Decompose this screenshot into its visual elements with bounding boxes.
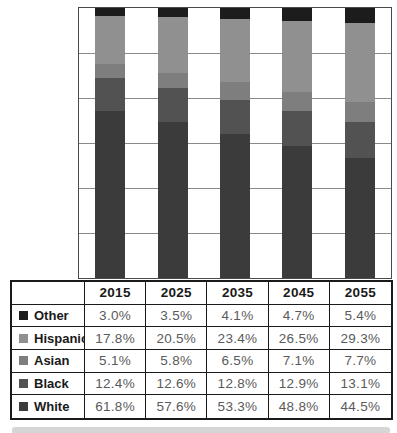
bottom-strip — [12, 427, 390, 433]
table-header-2035: 2035 — [207, 282, 268, 305]
table-value-other-2035: 4.1% — [207, 305, 268, 328]
bar-segment-asian-2025 — [158, 73, 188, 89]
bar-segment-other-2055 — [345, 8, 375, 23]
bar-segment-black-2025 — [158, 88, 188, 122]
table-header-2025: 2025 — [146, 282, 207, 305]
bar-2045 — [282, 8, 312, 278]
table-row-label-white: White — [12, 395, 85, 418]
legend-label-other: Other — [34, 308, 69, 323]
bar-segment-other-2035 — [220, 8, 250, 19]
table-value-black-2055: 13.1% — [330, 373, 391, 396]
table-value-other-2055: 5.4% — [330, 305, 391, 328]
data-table: 20152025203520452055Other3.0%3.5%4.1%4.7… — [10, 280, 393, 420]
table-row-label-hispanic: Hispanic — [12, 327, 85, 350]
bar-segment-black-2035 — [220, 100, 250, 135]
table-value-other-2015: 3.0% — [85, 305, 146, 328]
bar-segment-black-2045 — [282, 111, 312, 146]
bar-segment-asian-2055 — [345, 102, 375, 123]
table-value-other-2045: 4.7% — [269, 305, 330, 328]
table-value-asian-2055: 7.7% — [330, 350, 391, 373]
bar-segment-hispanic-2015 — [95, 16, 125, 64]
bar-segment-other-2045 — [282, 8, 312, 21]
bar-segment-white-2015 — [95, 111, 125, 278]
table-row-label-other: Other — [12, 305, 85, 328]
table-header-2015: 2015 — [85, 282, 146, 305]
stacked-bar-chart — [78, 7, 392, 279]
legend-label-white: White — [34, 399, 69, 414]
bars — [79, 8, 391, 278]
bar-slot-2025 — [141, 8, 203, 278]
table-value-white-2015: 61.8% — [85, 395, 146, 418]
bar-2055 — [345, 8, 375, 278]
table-value-white-2025: 57.6% — [146, 395, 207, 418]
bar-segment-black-2055 — [345, 122, 375, 157]
table-value-white-2045: 48.8% — [269, 395, 330, 418]
table-value-hispanic-2025: 20.5% — [146, 327, 207, 350]
bar-segment-white-2055 — [345, 158, 375, 278]
bar-slot-2055 — [329, 8, 391, 278]
table-value-hispanic-2035: 23.4% — [207, 327, 268, 350]
bar-slot-2035 — [204, 8, 266, 278]
bar-2015 — [95, 8, 125, 278]
bar-segment-white-2045 — [282, 146, 312, 278]
table-value-asian-2015: 5.1% — [85, 350, 146, 373]
bar-segment-asian-2015 — [95, 64, 125, 78]
table-value-black-2045: 12.9% — [269, 373, 330, 396]
table-value-hispanic-2015: 17.8% — [85, 327, 146, 350]
legend-label-black: Black — [34, 376, 69, 391]
table-value-other-2025: 3.5% — [146, 305, 207, 328]
bar-segment-black-2015 — [95, 78, 125, 111]
bar-slot-2015 — [79, 8, 141, 278]
bar-segment-hispanic-2045 — [282, 21, 312, 93]
legend-swatch-asian — [19, 356, 28, 365]
table-row-label-asian: Asian — [12, 350, 85, 373]
table-corner-cell — [12, 282, 85, 305]
bar-segment-white-2025 — [158, 122, 188, 278]
table-value-asian-2025: 5.8% — [146, 350, 207, 373]
bar-segment-asian-2045 — [282, 92, 312, 111]
table-value-white-2035: 53.3% — [207, 395, 268, 418]
table-row-label-black: Black — [12, 373, 85, 396]
bar-segment-other-2025 — [158, 8, 188, 17]
table-header-2055: 2055 — [330, 282, 391, 305]
table-value-white-2055: 44.5% — [330, 395, 391, 418]
table-value-black-2015: 12.4% — [85, 373, 146, 396]
bar-segment-hispanic-2035 — [220, 19, 250, 82]
bar-segment-white-2035 — [220, 134, 250, 278]
table-value-asian-2035: 6.5% — [207, 350, 268, 373]
bar-segment-hispanic-2025 — [158, 17, 188, 72]
legend-label-hispanic: Hispanic — [34, 331, 85, 346]
legend-swatch-black — [19, 379, 28, 388]
bar-segment-other-2015 — [95, 8, 125, 16]
bar-2025 — [158, 8, 188, 278]
table-value-asian-2045: 7.1% — [269, 350, 330, 373]
legend-swatch-hispanic — [19, 334, 28, 343]
table-value-black-2035: 12.8% — [207, 373, 268, 396]
bar-segment-hispanic-2055 — [345, 23, 375, 102]
legend-label-asian: Asian — [34, 353, 69, 368]
bar-segment-asian-2035 — [220, 82, 250, 100]
bar-2035 — [220, 8, 250, 278]
table-value-black-2025: 12.6% — [146, 373, 207, 396]
page: 20152025203520452055Other3.0%3.5%4.1%4.7… — [0, 0, 397, 433]
table-value-hispanic-2045: 26.5% — [269, 327, 330, 350]
legend-swatch-other — [19, 311, 28, 320]
table-value-hispanic-2055: 29.3% — [330, 327, 391, 350]
table-header-2045: 2045 — [269, 282, 330, 305]
bar-slot-2045 — [266, 8, 328, 278]
legend-swatch-white — [19, 402, 28, 411]
